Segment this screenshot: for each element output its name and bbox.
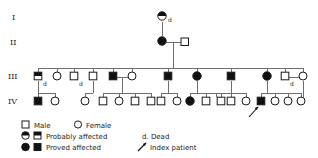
individual-iv-4[interactable] xyxy=(99,97,107,105)
legend-male-label: Male xyxy=(34,122,51,130)
dead-mark-iii-11: d xyxy=(290,80,294,87)
legend: Male Female Probably affected d. Dead Pr… xyxy=(22,121,197,152)
individual-iii-9[interactable] xyxy=(227,72,235,80)
individual-iv-2[interactable] xyxy=(51,97,59,105)
generation-label-ii: II xyxy=(10,38,16,47)
legend-proved-affected-square-icon xyxy=(34,144,41,151)
index-patient-arrow-icon xyxy=(249,107,258,117)
individual-iv-12[interactable] xyxy=(217,97,225,105)
individual-iv-14[interactable] xyxy=(227,97,235,105)
pedigree-chart: I II III IV xyxy=(0,0,318,158)
individual-iv-7[interactable] xyxy=(147,97,155,105)
legend-female-icon xyxy=(74,121,81,128)
legend-proved-affected-label: Proved affected xyxy=(46,144,101,152)
legend-index-patient-label: Index patient xyxy=(150,144,197,152)
individual-iv-1[interactable] xyxy=(34,97,42,105)
individual-iv-11[interactable] xyxy=(202,97,210,105)
individual-iii-4[interactable] xyxy=(89,72,97,80)
individual-iv-16-index-patient[interactable] xyxy=(257,97,265,105)
dead-mark-i-1: d xyxy=(168,16,172,23)
individual-iv-8[interactable] xyxy=(157,97,165,105)
generation-label-iii: III xyxy=(8,72,17,81)
individual-iii-6[interactable] xyxy=(128,72,136,80)
legend-probably-affected-label: Probably affected xyxy=(46,133,107,141)
individual-iii-5[interactable] xyxy=(109,72,117,80)
individual-iv-5[interactable] xyxy=(115,97,123,105)
legend-probably-affected-square-icon xyxy=(34,132,41,139)
legend-female-label: Female xyxy=(86,122,111,130)
individual-iv-18[interactable] xyxy=(284,97,292,105)
individual-ii-1[interactable] xyxy=(158,37,166,45)
pedigree-connector-lines xyxy=(38,22,303,97)
individual-iv-17[interactable] xyxy=(271,97,279,105)
individual-iv-9[interactable] xyxy=(173,97,181,105)
individual-iv-15[interactable] xyxy=(242,97,250,105)
dead-mark-iii-3: d xyxy=(79,80,83,87)
individual-iii-1[interactable] xyxy=(34,72,42,80)
half-fill-top xyxy=(34,72,42,76)
individual-iv-6[interactable] xyxy=(131,97,139,105)
legend-male-icon xyxy=(22,121,29,128)
individual-iii-7[interactable] xyxy=(164,72,172,80)
generation-label-iv: IV xyxy=(8,97,17,106)
individual-ii-2[interactable] xyxy=(181,38,189,46)
legend-dead-label: d. Dead xyxy=(142,133,169,141)
individual-iv-10[interactable] xyxy=(186,97,194,105)
individual-iii-11[interactable] xyxy=(281,72,289,80)
individual-iv-3[interactable] xyxy=(81,97,89,105)
individual-i-1[interactable] xyxy=(158,12,166,20)
legend-index-arrow-icon xyxy=(138,143,146,151)
legend-probably-affected-circle-icon xyxy=(22,132,30,140)
individual-iv-19[interactable] xyxy=(297,97,305,105)
dead-mark-iii-1: d xyxy=(43,80,47,87)
individual-iii-8[interactable] xyxy=(193,72,201,80)
generation-label-i: I xyxy=(12,13,15,22)
individual-iii-12[interactable] xyxy=(299,72,307,80)
pedigree-diagram: I II III IV xyxy=(0,0,318,158)
legend-proved-affected-circle-icon xyxy=(22,143,30,151)
individual-iii-3[interactable] xyxy=(70,72,78,80)
individual-iii-2[interactable] xyxy=(53,72,61,80)
individual-iii-10[interactable] xyxy=(263,72,271,80)
